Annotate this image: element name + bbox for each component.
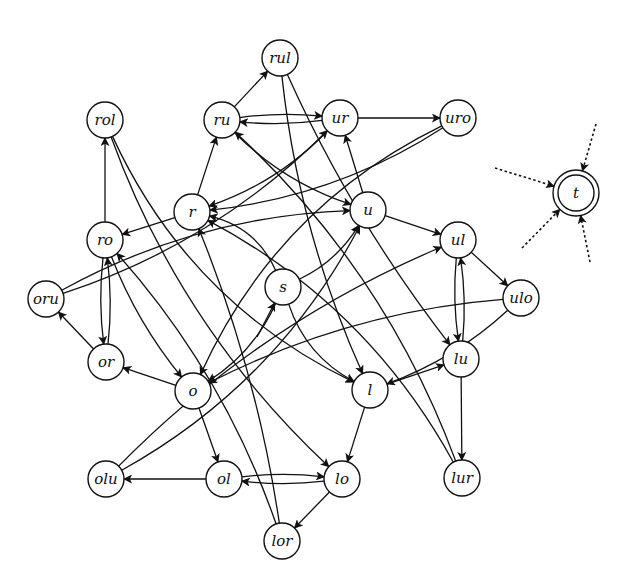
node-lo: lo — [324, 461, 360, 497]
node-ru: ru — [204, 102, 240, 138]
node-label: lu — [454, 350, 468, 368]
edge-lo-to-lor — [295, 492, 330, 528]
edge-o-to-or — [123, 368, 176, 386]
node-u: u — [350, 192, 386, 228]
node-label: or — [98, 353, 115, 371]
node-or: or — [88, 344, 124, 380]
node-label: lo — [335, 470, 349, 488]
node-label: uro — [445, 109, 471, 127]
edge-l-to-lo — [347, 407, 364, 462]
edge-ur-to-r — [209, 131, 327, 206]
node-r: r — [174, 194, 210, 230]
edge-o-to-ol — [199, 408, 218, 462]
edge-ul-to-ulo — [471, 252, 508, 286]
node-label: oru — [33, 290, 59, 308]
edge-ru-to-rul — [234, 71, 267, 107]
edge-ru-to-ur — [240, 114, 322, 117]
node-ur: ur — [322, 100, 358, 136]
node-rul: rul — [262, 40, 298, 76]
node-lor: lor — [264, 523, 300, 559]
node-label: o — [188, 382, 197, 400]
node-label: rul — [269, 49, 291, 67]
dotted-arrow-to-t — [495, 168, 554, 186]
edge-ul-to-lu — [455, 258, 459, 341]
node-s: s — [265, 269, 301, 305]
node-rol: rol — [87, 102, 123, 138]
edge-lu-to-lur — [461, 377, 462, 460]
node-ol: ol — [206, 461, 242, 497]
node-label: ru — [214, 111, 231, 129]
node-label: ol — [217, 470, 231, 488]
node-uro: uro — [440, 100, 476, 136]
edge-or-to-oru — [58, 312, 93, 349]
node-label: u — [363, 201, 373, 219]
edge-uro-to-o — [200, 126, 441, 375]
edge-u-to-ul — [385, 216, 441, 235]
node-o: o — [175, 373, 211, 409]
node-label: lor — [272, 532, 294, 550]
node-label: t — [573, 184, 580, 202]
edge-s-to-l — [289, 304, 354, 381]
state-diagram: rulrolruururoruroulsoruuloorolluoluollol… — [0, 0, 624, 588]
node-t: t — [553, 170, 599, 216]
edge-lur-to-r — [208, 220, 453, 462]
node-label: l — [368, 381, 373, 399]
nodes: rulrolruururoruroulsoruuloorolluoluollol… — [28, 40, 599, 559]
dotted-arrow-to-t — [581, 216, 590, 262]
edge-rol-to-lo — [111, 137, 329, 467]
node-label: ro — [97, 231, 113, 249]
node-ul: ul — [440, 222, 476, 258]
node-label: s — [279, 278, 287, 296]
node-lur: lur — [444, 460, 480, 496]
start-arrow — [257, 303, 275, 337]
node-label: ul — [451, 231, 466, 249]
node-ro: ro — [87, 222, 123, 258]
node-label: ulo — [509, 289, 533, 307]
edge-lu-to-ul — [461, 258, 465, 341]
node-label: r — [188, 203, 196, 221]
node-lu: lu — [443, 341, 479, 377]
node-l: l — [352, 372, 388, 408]
edge-r-to-ru — [198, 137, 217, 195]
edge-uro-to-r — [210, 128, 443, 210]
edge-s-to-r — [210, 216, 276, 271]
node-ulo: ulo — [503, 280, 539, 316]
node-label: rol — [95, 111, 116, 129]
dotted-arrow-to-t — [522, 209, 560, 248]
node-label: ur — [332, 109, 350, 127]
node-label: lur — [451, 469, 473, 487]
node-oru: oru — [28, 281, 64, 317]
edge-or-to-ro — [107, 258, 110, 344]
edge-ol-to-lo — [242, 474, 324, 476]
node-olu: olu — [88, 461, 124, 497]
dotted-arrow-to-t — [582, 124, 596, 171]
node-label: olu — [94, 470, 118, 488]
edge-lo-to-ol — [242, 481, 324, 483]
